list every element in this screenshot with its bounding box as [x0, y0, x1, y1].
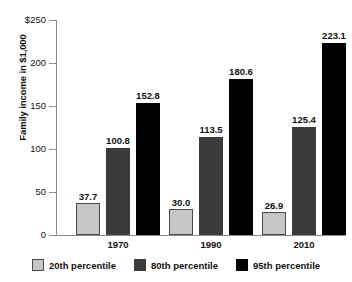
bar-value-1990-20th: 30.0 [172, 197, 191, 208]
legend-item-80th: 80th percentile [134, 259, 218, 271]
y-tick-label-50: 50 [35, 186, 46, 197]
legend-label-20th: 20th percentile [49, 260, 116, 271]
bar-value-1970-80th: 100.8 [106, 135, 130, 146]
plot-area: $250 200 150 100 50 0 37.7 100.8 152.8 3… [56, 20, 346, 235]
bar-value-1990-80th: 113.5 [199, 124, 222, 135]
y-tick-150: 150 [49, 106, 56, 107]
x-axis-line [56, 235, 346, 236]
bar-chart-figure: Family income in $1,000 $250 200 150 100… [0, 0, 352, 282]
bar-value-2010-95th: 223.1 [322, 30, 346, 41]
bar-value-1990-95th: 180.6 [229, 66, 253, 77]
y-tick-label-0: 0 [41, 229, 46, 240]
legend-label-80th: 80th percentile [151, 260, 218, 271]
y-tick-label-100: 100 [30, 143, 46, 154]
x-axis-label-2010: 2010 [293, 239, 314, 250]
bar-value-2010-20th: 26.9 [265, 200, 284, 211]
y-tick-50: 50 [49, 192, 56, 193]
bar-value-2010-80th: 125.4 [292, 114, 316, 125]
y-axis-line [56, 20, 57, 236]
y-tick-250: $250 [49, 20, 56, 21]
chart-legend: 20th percentile 80th percentile 95th per… [0, 259, 352, 271]
legend-swatch-20th-icon [32, 259, 44, 271]
x-axis-label-1970: 1970 [107, 239, 128, 250]
y-tick-200: 200 [49, 63, 56, 64]
y-tick-0: 0 [49, 235, 56, 236]
bar-1970-80th: 100.8 [106, 148, 130, 235]
y-axis-title: Family income in $1,000 [17, 0, 28, 178]
bar-value-1970-20th: 37.7 [79, 191, 98, 202]
y-tick-label-200: 200 [30, 57, 46, 68]
legend-item-95th: 95th percentile [236, 259, 320, 271]
legend-item-20th: 20th percentile [32, 259, 116, 271]
bar-1970-20th: 37.7 [76, 203, 100, 235]
y-tick-label-250: $250 [25, 14, 46, 25]
bar-2010-20th: 26.9 [262, 212, 286, 235]
bar-1990-80th: 113.5 [199, 137, 223, 235]
y-tick-label-150: 150 [30, 100, 46, 111]
y-tick-100: 100 [49, 149, 56, 150]
bar-2010-95th: 223.1 [322, 43, 346, 235]
bar-value-1970-95th: 152.8 [136, 90, 160, 101]
bar-1970-95th: 152.8 [136, 103, 160, 235]
legend-label-95th: 95th percentile [253, 260, 320, 271]
bar-1990-95th: 180.6 [229, 79, 253, 235]
legend-swatch-80th-icon [134, 259, 146, 271]
bar-1990-20th: 30.0 [169, 209, 193, 235]
legend-swatch-95th-icon [236, 259, 248, 271]
x-axis-label-1990: 1990 [200, 239, 221, 250]
bar-2010-80th: 125.4 [292, 127, 316, 235]
